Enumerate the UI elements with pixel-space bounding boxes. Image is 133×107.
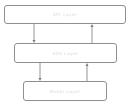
arrowhead-up-icon (91, 24, 94, 27)
arrowhead-down-icon (33, 40, 36, 43)
arrowhead-up-icon (86, 63, 89, 66)
arrows (0, 0, 133, 107)
arrowhead-down-icon (39, 78, 42, 81)
